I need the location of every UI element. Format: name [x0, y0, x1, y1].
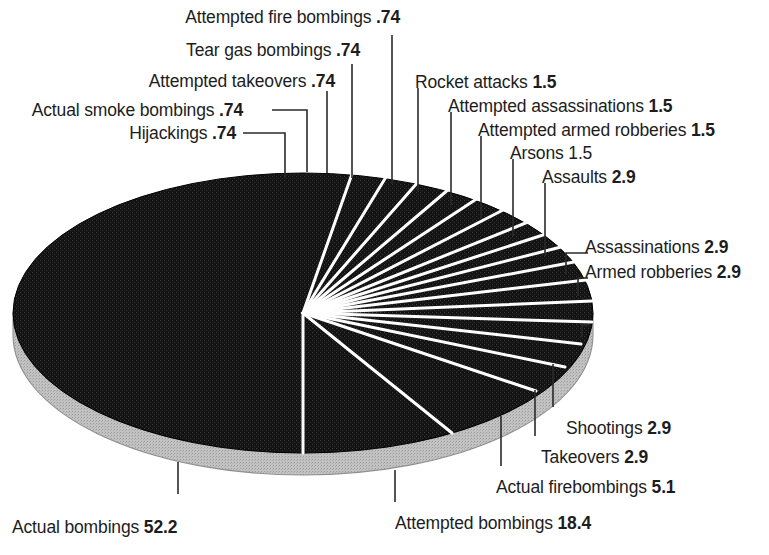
label-attempted-armed-robberies: Attempted armed robberies 1.5: [478, 121, 715, 140]
label-assassinations-name: Assassinations: [585, 237, 700, 257]
label-tear-gas-bombings-value: .74: [336, 40, 360, 60]
label-assassinations-value: 2.9: [704, 237, 728, 257]
label-actual-smoke-bombings: Actual smoke bombings .74: [18, 101, 243, 120]
leader-actual-smoke-bombings: [272, 110, 307, 172]
label-takeovers: Takeovers 2.9: [541, 448, 648, 467]
label-actual-bombings: Actual bombings 52.2: [12, 518, 177, 537]
leader-hijackings: [243, 133, 285, 178]
label-attempted-armed-robberies-name: Attempted armed robberies: [478, 120, 686, 140]
label-assaults: Assaults 2.9: [542, 168, 636, 187]
label-attempted-bombings-value: 18.4: [558, 513, 591, 533]
label-actual-smoke-bombings-name: Actual smoke bombings: [32, 100, 215, 120]
label-shootings-name: Shootings: [566, 418, 643, 438]
label-attempted-fire-bombings-name: Attempted fire bombings: [185, 7, 371, 27]
label-actual-firebombings: Actual firebombings 5.1: [496, 478, 675, 497]
label-rocket-attacks: Rocket attacks 1.5: [415, 73, 556, 92]
label-attempted-takeovers-value: .74: [311, 71, 335, 91]
label-actual-firebombings-value: 5.1: [652, 477, 676, 497]
label-takeovers-value: 2.9: [624, 447, 648, 467]
label-attempted-takeovers: Attempted takeovers .74: [18, 72, 335, 91]
label-shootings-value: 2.9: [647, 418, 671, 438]
label-armed-robberies-name: Armed robberies: [585, 262, 712, 282]
label-attempted-fire-bombings: Attempted fire bombings .74: [18, 8, 400, 27]
label-actual-smoke-bombings-value: .74: [219, 100, 243, 120]
label-attempted-assassinations: Attempted assassinations 1.5: [448, 97, 672, 116]
label-assaults-value: 2.9: [612, 167, 636, 187]
label-shootings: Shootings 2.9: [566, 419, 671, 438]
label-arsons: Arsons 1.5: [510, 144, 592, 163]
label-attempted-armed-robberies-value: 1.5: [691, 120, 715, 140]
label-attempted-bombings: Attempted bombings 18.4: [395, 514, 591, 533]
label-actual-bombings-value: 52.2: [144, 517, 177, 537]
label-actual-firebombings-name: Actual firebombings: [496, 477, 647, 497]
label-tear-gas-bombings-name: Tear gas bombings: [186, 40, 331, 60]
label-arsons-name: Arsons: [510, 143, 564, 163]
label-attempted-takeovers-name: Attempted takeovers: [149, 71, 307, 91]
label-hijackings-value: .74: [212, 123, 236, 143]
label-rocket-attacks-value: 1.5: [532, 72, 556, 92]
label-takeovers-name: Takeovers: [541, 447, 619, 467]
label-assassinations: Assassinations 2.9: [585, 238, 728, 257]
label-attempted-fire-bombings-value: .74: [376, 7, 400, 27]
pie-chart-figure: Attempted fire bombings .74 Tear gas bom…: [0, 0, 769, 555]
label-rocket-attacks-name: Rocket attacks: [415, 72, 528, 92]
label-tear-gas-bombings: Tear gas bombings .74: [18, 41, 360, 60]
label-armed-robberies-value: 2.9: [717, 262, 741, 282]
label-assaults-name: Assaults: [542, 167, 607, 187]
label-attempted-bombings-name: Attempted bombings: [395, 513, 553, 533]
label-arsons-value: 1.5: [568, 143, 592, 163]
label-hijackings-name: Hijackings: [129, 123, 207, 143]
label-attempted-assassinations-value: 1.5: [649, 96, 673, 116]
label-actual-bombings-name: Actual bombings: [12, 517, 139, 537]
label-armed-robberies: Armed robberies 2.9: [585, 263, 741, 282]
label-attempted-assassinations-name: Attempted assassinations: [448, 96, 644, 116]
label-hijackings: Hijackings .74: [18, 124, 236, 143]
